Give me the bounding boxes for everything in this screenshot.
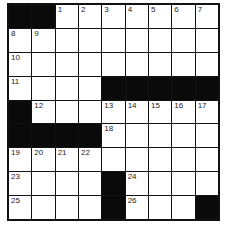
clue-number: 22	[81, 149, 90, 157]
crossword-cell[interactable]	[79, 172, 101, 195]
black-square	[149, 77, 171, 100]
black-square	[32, 5, 54, 28]
clue-number: 11	[11, 78, 19, 86]
crossword-cell[interactable]: 17	[196, 101, 218, 124]
crossword-cell[interactable]: 11	[9, 77, 31, 100]
crossword-cell[interactable]: 14	[126, 101, 148, 124]
black-square	[9, 101, 31, 124]
crossword-cell[interactable]	[102, 29, 124, 52]
crossword-cell[interactable]	[32, 196, 54, 219]
crossword-cell[interactable]	[126, 124, 148, 147]
crossword-cell[interactable]	[79, 77, 101, 100]
crossword-cell[interactable]	[102, 148, 124, 171]
crossword-cell[interactable]	[32, 53, 54, 76]
crossword-cell[interactable]	[79, 53, 101, 76]
clue-number: 20	[34, 149, 43, 157]
crossword-cell[interactable]	[56, 53, 78, 76]
clue-number: 23	[11, 173, 20, 181]
crossword-cell[interactable]	[196, 53, 218, 76]
crossword-cell[interactable]	[102, 53, 124, 76]
clue-number: 5	[151, 6, 155, 14]
crossword-cell[interactable]: 21	[56, 148, 78, 171]
clue-number: 9	[34, 30, 38, 38]
crossword-cell[interactable]	[149, 172, 171, 195]
crossword-cell[interactable]: 24	[126, 172, 148, 195]
crossword-cell[interactable]: 2	[79, 5, 101, 28]
crossword-cell[interactable]: 18	[102, 124, 124, 147]
crossword-cell[interactable]	[56, 77, 78, 100]
crossword-cell[interactable]: 6	[172, 5, 194, 28]
crossword-cell[interactable]	[172, 172, 194, 195]
black-square	[196, 196, 218, 219]
clue-number: 3	[104, 6, 108, 14]
crossword-grid: 1234567891011121314151617181920212223242…	[7, 3, 220, 221]
crossword-cell[interactable]	[172, 148, 194, 171]
black-square	[102, 196, 124, 219]
clue-number: 10	[11, 54, 20, 62]
black-square	[196, 77, 218, 100]
crossword-cell[interactable]	[172, 53, 194, 76]
clue-number: 21	[58, 149, 67, 157]
crossword-cell[interactable]: 1	[56, 5, 78, 28]
crossword-cell[interactable]: 26	[126, 196, 148, 219]
clue-number: 6	[174, 6, 178, 14]
crossword-cell[interactable]: 8	[9, 29, 31, 52]
clue-number: 4	[128, 6, 132, 14]
black-square	[32, 124, 54, 147]
crossword-cell[interactable]	[172, 124, 194, 147]
crossword-cell[interactable]	[149, 148, 171, 171]
clue-number: 7	[198, 6, 202, 14]
crossword-cell[interactable]	[149, 53, 171, 76]
crossword-cell[interactable]	[149, 29, 171, 52]
black-square	[9, 124, 31, 147]
crossword-cell[interactable]	[79, 101, 101, 124]
crossword-cell[interactable]	[196, 29, 218, 52]
crossword-cell[interactable]	[32, 172, 54, 195]
crossword-cell[interactable]	[32, 77, 54, 100]
crossword-cell[interactable]: 13	[102, 101, 124, 124]
clue-number: 14	[128, 102, 137, 110]
clue-number: 17	[198, 102, 207, 110]
black-square	[102, 172, 124, 195]
crossword-cell[interactable]	[126, 53, 148, 76]
clue-number: 1	[58, 6, 62, 14]
crossword-cell[interactable]: 4	[126, 5, 148, 28]
crossword-cell[interactable]: 25	[9, 196, 31, 219]
crossword-cell[interactable]	[196, 148, 218, 171]
crossword-cell[interactable]: 3	[102, 5, 124, 28]
crossword-cell[interactable]	[196, 124, 218, 147]
crossword-cell[interactable]	[79, 196, 101, 219]
black-square	[126, 77, 148, 100]
crossword-cell[interactable]	[56, 29, 78, 52]
crossword-cell[interactable]	[56, 101, 78, 124]
crossword-cell[interactable]: 16	[172, 101, 194, 124]
crossword-cell[interactable]	[79, 29, 101, 52]
crossword-cell[interactable]	[126, 29, 148, 52]
crossword-cell[interactable]	[149, 124, 171, 147]
crossword-cell[interactable]	[126, 148, 148, 171]
crossword-cell[interactable]: 15	[149, 101, 171, 124]
crossword-cell[interactable]: 10	[9, 53, 31, 76]
clue-number: 8	[11, 30, 15, 38]
crossword-cell[interactable]	[149, 196, 171, 219]
black-square	[56, 124, 78, 147]
crossword-cell[interactable]: 7	[196, 5, 218, 28]
crossword-cell[interactable]	[172, 196, 194, 219]
crossword-cell[interactable]	[196, 172, 218, 195]
crossword-cell[interactable]: 12	[32, 101, 54, 124]
clue-number: 13	[104, 102, 113, 110]
clue-number: 15	[151, 102, 160, 110]
clue-number: 12	[34, 102, 43, 110]
crossword-cell[interactable]: 23	[9, 172, 31, 195]
black-square	[79, 124, 101, 147]
crossword-cell[interactable]: 19	[9, 148, 31, 171]
crossword-cell[interactable]: 9	[32, 29, 54, 52]
crossword-cell[interactable]	[56, 172, 78, 195]
crossword-cell[interactable]	[172, 29, 194, 52]
crossword-cell[interactable]: 5	[149, 5, 171, 28]
crossword-cell[interactable]: 22	[79, 148, 101, 171]
clue-number: 19	[11, 149, 20, 157]
crossword-cell[interactable]	[56, 196, 78, 219]
clue-number: 26	[128, 197, 137, 205]
crossword-cell[interactable]: 20	[32, 148, 54, 171]
